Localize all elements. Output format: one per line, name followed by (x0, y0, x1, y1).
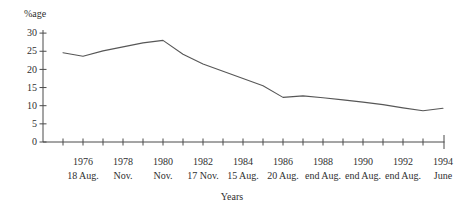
x-tick-date-label: June (434, 170, 453, 181)
x-tick-date-label: end Aug. (345, 170, 381, 181)
x-tick-date-label: Nov. (153, 170, 172, 181)
line-chart: %age051015202530197618 Aug.1978Nov.1980N… (0, 0, 469, 214)
x-axis-title: Years (221, 191, 243, 202)
x-tick-date-label: 15 Aug. (227, 170, 259, 181)
x-tick-date-label: end Aug. (385, 170, 421, 181)
y-tick-label: 0 (32, 136, 37, 147)
x-tick-year-label: 1994 (433, 156, 453, 167)
x-tick-year-label: 1976 (73, 156, 93, 167)
x-tick-year-label: 1980 (153, 156, 173, 167)
x-tick-date-label: 18 Aug. (67, 170, 99, 181)
x-tick-year-label: 1992 (393, 156, 413, 167)
y-tick-label: 20 (27, 64, 37, 75)
x-tick-date-label: end Aug. (305, 170, 341, 181)
axis-lines (43, 30, 445, 142)
x-tick-year-label: 1978 (113, 156, 133, 167)
x-tick-year-label: 1982 (193, 156, 213, 167)
x-tick-year-label: 1986 (273, 156, 293, 167)
x-tick-year-label: 1990 (353, 156, 373, 167)
y-tick-label: 5 (32, 118, 37, 129)
x-tick-year-label: 1984 (233, 156, 253, 167)
y-tick-label: 10 (27, 100, 37, 111)
x-tick-date-label: Nov. (113, 170, 132, 181)
y-tick-label: 15 (27, 82, 37, 93)
x-tick-date-label: 20 Aug. (267, 170, 299, 181)
chart-figure: %age051015202530197618 Aug.1978Nov.1980N… (0, 0, 469, 214)
x-tick-date-label: 17 Nov. (187, 170, 219, 181)
y-axis-title: %age (24, 8, 47, 19)
y-tick-label: 25 (27, 45, 37, 56)
data-line (63, 40, 443, 110)
x-tick-year-label: 1988 (313, 156, 333, 167)
y-tick-label: 30 (27, 27, 37, 38)
